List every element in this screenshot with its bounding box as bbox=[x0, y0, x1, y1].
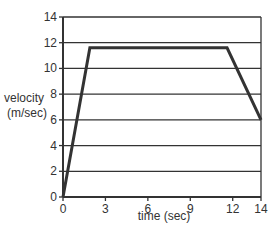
velocity-line bbox=[63, 48, 261, 197]
velocity-time-chart: 02468101214 03691214 velocity (m/sec) ti… bbox=[0, 0, 280, 236]
x-tick-label: 14 bbox=[254, 202, 268, 216]
x-tick-label: 0 bbox=[60, 202, 67, 216]
y-axis-label-line1: velocity bbox=[4, 91, 44, 105]
y-tick-label: 0 bbox=[50, 190, 57, 204]
axes bbox=[63, 17, 261, 197]
y-tick-label: 10 bbox=[44, 61, 58, 75]
grid-lines bbox=[63, 17, 261, 197]
y-tick-label: 14 bbox=[44, 10, 58, 24]
y-tick-label: 12 bbox=[44, 36, 58, 50]
x-axis-label: time (sec) bbox=[138, 209, 191, 223]
x-tick-label: 12 bbox=[226, 202, 240, 216]
y-tick-label: 8 bbox=[50, 87, 57, 101]
y-tick-label: 4 bbox=[50, 139, 57, 153]
x-tick-label: 3 bbox=[102, 202, 109, 216]
y-axis-label-line2: (m/sec) bbox=[7, 106, 47, 120]
y-tick-label: 6 bbox=[50, 113, 57, 127]
y-tick-label: 2 bbox=[50, 164, 57, 178]
